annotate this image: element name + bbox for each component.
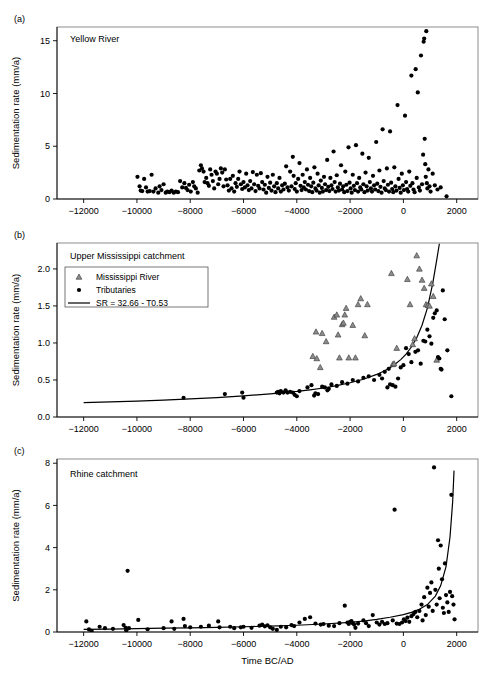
data-point-dot — [365, 184, 369, 188]
data-point-dot — [279, 625, 283, 629]
data-point-dot — [263, 183, 267, 187]
data-point-dot — [422, 37, 426, 41]
data-point-dot — [287, 188, 291, 192]
fit-curve — [84, 471, 454, 630]
data-point-dot — [196, 191, 200, 195]
data-point-dot — [427, 334, 431, 338]
data-point-dot — [224, 177, 228, 181]
data-point-dot — [445, 348, 449, 352]
data-point-dot — [449, 493, 453, 497]
panel-title: Rhine catchment — [70, 469, 138, 479]
data-point-dot — [191, 180, 195, 184]
data-point-dot — [375, 182, 379, 186]
data-point-dot — [419, 602, 423, 606]
data-point-dot — [169, 619, 173, 623]
data-point-dot — [176, 190, 180, 194]
data-point-dot — [415, 176, 419, 180]
data-point-dot — [403, 114, 407, 118]
data-point-dot — [135, 175, 139, 179]
data-point-dot — [228, 625, 232, 629]
data-point-triangle — [362, 333, 368, 338]
data-point-dot — [331, 149, 335, 153]
data-point-dot — [236, 177, 240, 181]
data-point-dot — [138, 184, 142, 188]
data-point-dot — [439, 185, 443, 189]
data-point-dot — [217, 177, 221, 181]
data-point-dot — [212, 186, 216, 190]
y-tick-label: 2 — [45, 585, 50, 595]
data-point-dot — [445, 600, 449, 604]
data-point-dot — [418, 188, 422, 192]
data-point-dot — [345, 382, 349, 386]
y-tick-label: 0.0 — [37, 412, 50, 422]
data-point-dot — [140, 189, 144, 193]
x-tick-label: −4000 — [284, 424, 309, 434]
data-point-triangle — [405, 276, 411, 281]
data-point-dot — [188, 625, 192, 629]
data-point-dot — [379, 191, 383, 195]
plot-area — [84, 244, 454, 403]
data-point-dot — [308, 176, 312, 180]
data-point-dot — [292, 174, 296, 178]
data-point-dot — [450, 594, 454, 598]
data-point-triangle — [414, 253, 420, 258]
data-point-dot — [103, 626, 107, 630]
legend-label: SR = 32.66 - T0.53 — [96, 298, 168, 308]
data-point-dot — [367, 156, 371, 160]
data-point-dot — [204, 176, 208, 180]
data-point-dot — [431, 609, 435, 613]
y-tick-label: 2.0 — [37, 264, 50, 274]
data-point-dot — [439, 543, 443, 547]
data-point-dot — [237, 169, 241, 173]
data-point-dot — [424, 29, 428, 33]
data-point-dot — [283, 182, 287, 186]
x-tick-label: 2000 — [447, 206, 467, 216]
data-point-dot — [288, 169, 292, 173]
data-point-triangle — [342, 312, 348, 317]
data-point-dot — [372, 378, 376, 382]
data-point-dot — [322, 175, 326, 179]
y-tick-label: 5 — [45, 141, 50, 151]
data-point-dot — [357, 176, 361, 180]
legend-marker-triangle — [76, 274, 82, 279]
data-point-dot — [316, 392, 320, 396]
data-point-dot — [313, 621, 317, 625]
data-point-dot — [144, 185, 148, 189]
data-point-dot — [420, 618, 424, 622]
data-point-dot — [416, 348, 420, 352]
data-point-dot — [435, 308, 439, 312]
data-point-dot — [178, 179, 182, 183]
data-point-dot — [443, 561, 447, 565]
data-point-dot — [223, 167, 227, 171]
data-point-dot — [255, 173, 259, 177]
data-point-dot — [126, 569, 130, 573]
data-point-dot — [392, 508, 396, 512]
data-point-dot — [382, 179, 386, 183]
data-point-dot — [404, 180, 408, 184]
legend-marker-dot — [77, 288, 81, 292]
y-tick-label: 0.5 — [37, 375, 50, 385]
data-point-dot — [367, 624, 371, 628]
data-point-dot — [431, 172, 435, 176]
data-point-dot — [329, 183, 333, 187]
data-point-dot — [347, 181, 351, 185]
data-point-dot — [442, 611, 446, 615]
data-point-dot — [343, 604, 347, 608]
data-point-triangle — [323, 338, 329, 343]
data-point-dot — [447, 610, 451, 614]
data-point-dot — [405, 616, 409, 620]
data-point-dot — [305, 167, 309, 171]
data-point-dot — [335, 173, 339, 177]
data-point-dot — [208, 167, 212, 171]
y-tick-label: 10 — [40, 89, 50, 99]
data-point-triangle — [313, 329, 319, 334]
data-point-dot — [413, 610, 417, 614]
data-point-dot — [257, 186, 261, 190]
data-point-dot — [161, 182, 165, 186]
data-point-triangle — [417, 266, 423, 271]
data-point-dot — [412, 190, 416, 194]
data-point-dot — [321, 622, 325, 626]
data-point-dot — [161, 626, 165, 630]
series-mississippi-river — [310, 253, 440, 370]
data-point-dot — [328, 176, 332, 180]
